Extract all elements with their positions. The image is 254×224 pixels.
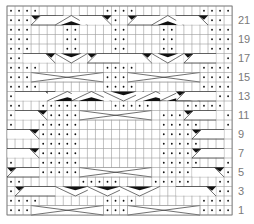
purl-dot xyxy=(179,133,181,135)
purl-dot xyxy=(203,76,205,78)
purl-dot xyxy=(10,200,12,202)
purl-dot xyxy=(91,181,93,183)
purl-dot xyxy=(195,124,197,126)
row-number-label: 17 xyxy=(238,53,254,64)
purl-dot xyxy=(179,124,181,126)
purl-dot xyxy=(187,162,189,164)
purl-dot xyxy=(123,38,125,40)
purl-dot xyxy=(107,209,109,211)
purl-dot xyxy=(211,76,213,78)
purl-dot xyxy=(115,86,117,88)
purl-dot xyxy=(115,29,117,31)
purl-dot xyxy=(211,209,213,211)
purl-dot xyxy=(115,67,117,69)
purl-dot xyxy=(115,181,117,183)
purl-dot xyxy=(227,29,229,31)
purl-dot xyxy=(211,86,213,88)
purl-dot xyxy=(123,105,125,107)
purl-dot xyxy=(74,38,76,40)
purl-dot xyxy=(10,162,12,164)
purl-dot xyxy=(203,86,205,88)
purl-dot xyxy=(147,105,149,107)
purl-dot xyxy=(74,133,76,135)
purl-dot xyxy=(123,86,125,88)
purl-dot xyxy=(66,105,68,107)
purl-dot xyxy=(74,124,76,126)
purl-dot xyxy=(163,38,165,40)
purl-dot xyxy=(66,29,68,31)
purl-dot xyxy=(50,162,52,164)
purl-dot xyxy=(211,105,213,107)
purl-dot xyxy=(74,162,76,164)
purl-dot xyxy=(219,38,221,40)
purl-dot xyxy=(10,48,12,50)
purl-dot xyxy=(26,19,28,21)
purl-dot xyxy=(34,10,36,12)
purl-dot xyxy=(163,181,165,183)
purl-dot xyxy=(203,67,205,69)
purl-dot xyxy=(115,76,117,78)
purl-dot xyxy=(227,162,229,164)
purl-dot xyxy=(123,48,125,50)
purl-dot xyxy=(227,76,229,78)
purl-dot xyxy=(211,38,213,40)
purl-dot xyxy=(18,209,20,211)
purl-dot xyxy=(66,48,68,50)
purl-dot xyxy=(42,124,44,126)
purl-dot xyxy=(211,67,213,69)
row-number-label: 13 xyxy=(238,91,254,102)
purl-dot xyxy=(107,76,109,78)
row-number-label: 9 xyxy=(238,129,254,140)
purl-dot xyxy=(123,200,125,202)
purl-dot xyxy=(107,181,109,183)
purl-dot xyxy=(10,190,12,192)
purl-dot xyxy=(18,200,20,202)
purl-dot xyxy=(227,48,229,50)
purl-dot xyxy=(42,133,44,135)
purl-dot xyxy=(66,143,68,145)
purl-dot xyxy=(10,114,12,116)
purl-dot xyxy=(50,133,52,135)
purl-dot xyxy=(74,48,76,50)
purl-dot xyxy=(18,86,20,88)
purl-dot xyxy=(219,181,221,183)
purl-dot xyxy=(58,152,60,154)
purl-dot xyxy=(34,86,36,88)
purl-dot xyxy=(227,171,229,173)
purl-dot xyxy=(26,67,28,69)
row-number-label: 11 xyxy=(238,110,254,121)
purl-dot xyxy=(18,105,20,107)
purl-dot xyxy=(66,133,68,135)
row-number-label: 21 xyxy=(238,15,254,26)
purl-dot xyxy=(227,209,229,211)
purl-dot xyxy=(10,19,12,21)
purl-dot xyxy=(115,48,117,50)
purl-dot xyxy=(163,124,165,126)
purl-dot xyxy=(74,105,76,107)
purl-dot xyxy=(115,10,117,12)
purl-dot xyxy=(203,105,205,107)
purl-dot xyxy=(26,76,28,78)
purl-dot xyxy=(10,67,12,69)
purl-dot xyxy=(10,209,12,211)
purl-dot xyxy=(131,200,133,202)
purl-dot xyxy=(219,10,221,12)
purl-dot xyxy=(50,152,52,154)
purl-dot xyxy=(10,10,12,12)
purl-dot xyxy=(74,29,76,31)
purl-dot xyxy=(115,200,117,202)
purl-dot xyxy=(99,181,101,183)
purl-dot xyxy=(187,143,189,145)
purl-dot xyxy=(227,38,229,40)
purl-dot xyxy=(211,48,213,50)
purl-dot xyxy=(18,57,20,59)
purl-dot xyxy=(179,152,181,154)
purl-dot xyxy=(187,152,189,154)
purl-dot xyxy=(66,124,68,126)
purl-dot xyxy=(131,67,133,69)
purl-dot xyxy=(34,67,36,69)
purl-dot xyxy=(10,38,12,40)
purl-dot xyxy=(163,133,165,135)
purl-dot xyxy=(171,38,173,40)
purl-dot xyxy=(131,10,133,12)
